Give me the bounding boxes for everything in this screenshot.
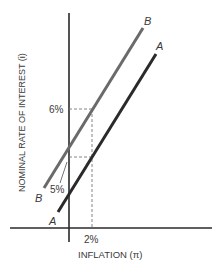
x-tick-2pct: 2%	[84, 234, 99, 245]
y-axis-title: NOMINAL RATE OF INTEREST (i)	[17, 53, 27, 192]
leader-5pct	[60, 162, 67, 183]
curve-a	[58, 54, 156, 212]
y-tick-6pct: 6%	[49, 104, 64, 115]
chart: B A B A 6% 5% 2% INFLATION (π) NOMINAL R…	[0, 0, 222, 272]
y-tick-5pct: 5%	[50, 184, 65, 195]
curve-a-top-label: A	[155, 40, 163, 52]
curve-b-bottom-label: B	[35, 192, 42, 204]
x-axis-title: INFLATION (π)	[78, 249, 142, 260]
curve-a-bottom-label: A	[48, 215, 56, 227]
curve-b-top-label: B	[144, 15, 151, 27]
